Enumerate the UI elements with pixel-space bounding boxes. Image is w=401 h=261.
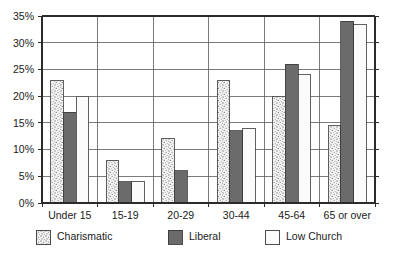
y-tick-label: 30% [13, 37, 34, 49]
y-tick-label: 25% [13, 63, 34, 75]
bar [51, 80, 64, 203]
legend-swatch-low-church [265, 230, 279, 244]
bar [243, 128, 256, 203]
legend-label: Charismatic [57, 230, 112, 242]
bar [273, 96, 286, 203]
legend-swatch-charismatic [36, 230, 50, 244]
legend-label: Low Church [286, 230, 342, 242]
bar [132, 182, 145, 203]
x-tick-label: Under 15 [48, 209, 91, 221]
chart-canvas: 0%5%10%15%20%25%30%35% Under 1515-1920-2… [0, 0, 401, 261]
bar [217, 80, 230, 203]
x-tick-label: 15-19 [112, 209, 139, 221]
bar [76, 96, 89, 203]
x-tick-label: 65 or over [324, 209, 372, 221]
y-tick-label: 10% [13, 143, 34, 155]
bar [230, 131, 243, 203]
bar [119, 182, 132, 203]
x-tick-label: 20-29 [167, 209, 194, 221]
chart-legend: CharismaticLiberalLow Church [36, 230, 342, 244]
bar [162, 139, 175, 203]
x-tick-label: 45-64 [278, 209, 305, 221]
bar [354, 24, 367, 203]
bar [285, 64, 298, 203]
y-tick-label: 35% [13, 10, 34, 22]
legend-label: Liberal [189, 230, 221, 242]
bar [328, 126, 341, 203]
x-tick-label: 30-44 [223, 209, 250, 221]
y-tick-label: 5% [19, 170, 34, 182]
legend-swatch-liberal [168, 230, 182, 244]
bar [63, 112, 76, 203]
y-tick-label: 20% [13, 90, 34, 102]
bar [298, 75, 311, 203]
bar [106, 160, 119, 203]
bar [341, 21, 354, 203]
bar-chart: 0%5%10%15%20%25%30%35% Under 1515-1920-2… [0, 0, 401, 261]
bar [174, 171, 187, 203]
y-tick-label: 0% [19, 197, 34, 209]
y-tick-label: 15% [13, 117, 34, 129]
